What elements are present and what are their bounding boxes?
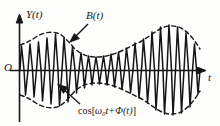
envelope-label: B(t) <box>86 10 103 21</box>
carrier-label-prefix: cos[ <box>78 105 95 116</box>
y-axis-label: Y(t) <box>26 9 43 20</box>
waveform-figure: Y(t) B(t) O t cos[ω0t+Φ(t)] <box>0 0 220 126</box>
t-axis-label: t <box>208 72 211 83</box>
t-axis-arrowhead <box>198 67 207 74</box>
carrier-label-suffix: ] <box>133 105 136 116</box>
carrier-label-mid: t+ <box>105 105 115 116</box>
carrier-label: cos[ω0t+Φ(t)] <box>78 106 136 117</box>
origin-label: O <box>4 62 12 73</box>
y-axis-arrowhead <box>16 14 23 23</box>
carrier-label-phi: Φ(t) <box>115 105 132 116</box>
